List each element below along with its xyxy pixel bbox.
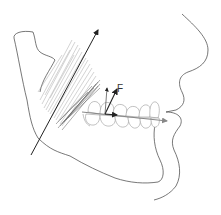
muscle-line-of-action-arrow [31, 30, 98, 155]
mandible-diagram [0, 0, 221, 215]
force-label: F [117, 84, 123, 94]
facial-profile [166, 14, 208, 112]
